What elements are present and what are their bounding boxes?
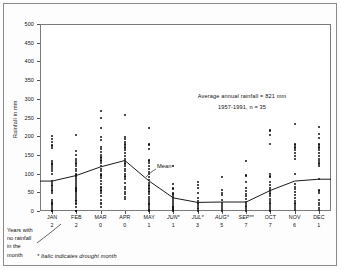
y-tick-label-350: 350: [10, 77, 34, 83]
y-tick-label-300: 300: [10, 96, 34, 102]
y-tick-label-0: 0: [10, 208, 34, 214]
dry-years-note-line-4: month: [7, 251, 33, 259]
y-tick-mark-0: [37, 211, 40, 212]
period-sample-annotation: 1957-1991, n = 35: [172, 104, 312, 110]
average-rainfall-annotation: Average annual rainfall = 821 mm: [172, 93, 312, 99]
dry-years-note-line-3: in the: [7, 242, 33, 250]
y-tick-label-250: 250: [10, 115, 34, 121]
mean-leader-line: [143, 160, 165, 178]
y-tick-label-50: 50: [10, 189, 34, 195]
drought-footnote: * Italic indicates drought month: [37, 253, 117, 259]
dry-years-note: Years with no rainfall in the month: [7, 226, 33, 259]
dry-year-count: 1: [304, 221, 334, 229]
mean-line-path: [40, 161, 331, 203]
dry-years-leader-line: [34, 222, 64, 248]
y-tick-label-500: 500: [10, 21, 34, 27]
mean-trend-line: [40, 24, 331, 211]
y-tick-label-200: 200: [10, 133, 34, 139]
y-tick-label-150: 150: [10, 152, 34, 158]
y-tick-label-100: 100: [10, 171, 34, 177]
y-tick-label-450: 450: [10, 40, 34, 46]
rainfall-scatter-figure: Rainfall in mm 0501001502002503003504004…: [0, 0, 341, 270]
dry-years-note-line-2: no rainfall: [7, 234, 33, 242]
x-axis-label-DEC: DEC1: [304, 214, 334, 229]
dry-years-note-line-1: Years with: [7, 226, 33, 234]
month-name: DEC: [304, 214, 334, 221]
y-tick-label-400: 400: [10, 58, 34, 64]
